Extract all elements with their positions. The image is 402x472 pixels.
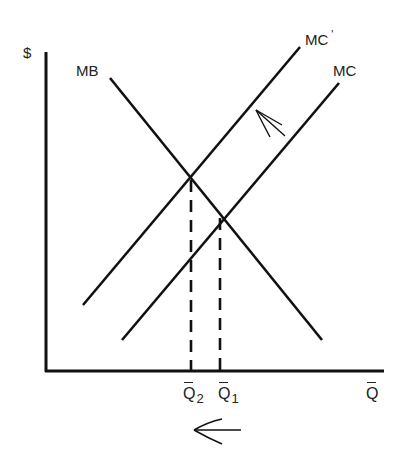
left-arrow-icon xyxy=(194,419,241,444)
q2-bar xyxy=(184,382,193,383)
q2-label: Q2 xyxy=(183,385,204,403)
x-axis-label: Q xyxy=(366,385,378,403)
y-axis-label: $ xyxy=(23,44,31,61)
q1-bar xyxy=(219,382,228,383)
mb-label: MB xyxy=(76,62,99,79)
q1-label: Q1 xyxy=(218,385,239,403)
mc-prime-label-text: MC xyxy=(305,31,328,48)
x-axis-bar xyxy=(367,382,376,383)
mc-curve xyxy=(122,83,339,340)
mc-label: MC xyxy=(333,62,356,79)
shift-arrow-icon xyxy=(256,110,285,137)
mc-prime-label: MC' xyxy=(305,31,333,48)
mb-curve xyxy=(110,78,322,340)
